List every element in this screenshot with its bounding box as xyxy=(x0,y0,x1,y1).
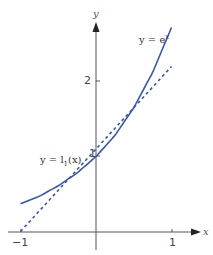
exp-label-sup: x xyxy=(165,33,169,41)
y-tick-label-2: 2 xyxy=(84,75,91,86)
x-tick-label-neg1: −1 xyxy=(12,237,28,248)
lin-label-base: y = l xyxy=(40,154,64,165)
x-tick-label-1: 1 xyxy=(169,237,176,248)
x-axis-arrow-icon xyxy=(191,229,201,236)
exp-curve-label: y = ex xyxy=(139,34,169,45)
chart-plot xyxy=(0,0,213,255)
y-axis-label: y xyxy=(93,9,99,19)
x-axis-label: x xyxy=(203,227,209,237)
lin-label-arg: (x) xyxy=(68,154,81,165)
y-tick-label-1: 1 xyxy=(89,148,96,159)
linear-approx-label: y = l1(x) xyxy=(40,155,82,168)
exp-label-base: y = e xyxy=(139,34,165,45)
y-axis-arrow-icon xyxy=(93,22,100,32)
